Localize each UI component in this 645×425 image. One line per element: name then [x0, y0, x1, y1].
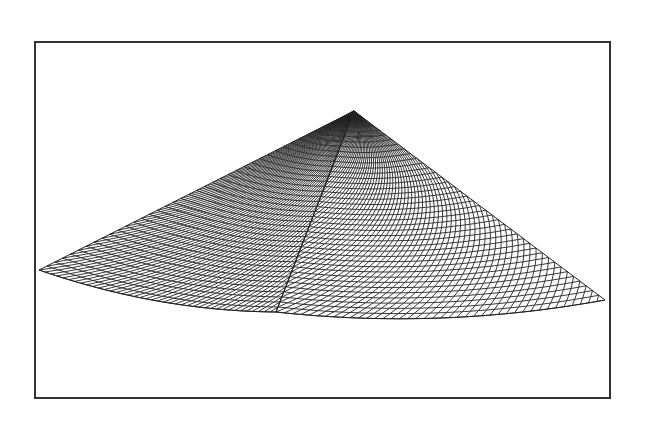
surface-mesh-plot [0, 0, 645, 425]
